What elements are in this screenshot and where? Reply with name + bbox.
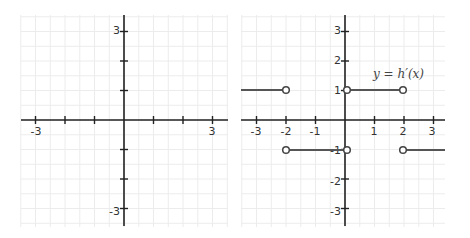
left-x-label-neg3: -3 (31, 125, 42, 138)
figure: -3 3 3 -3 -3 -2 -1 1 2 3 3 2 1 -1 -2 -3 … (0, 0, 470, 238)
open-point-0-pos1 (344, 87, 351, 94)
right-x-label-neg1: -1 (310, 125, 321, 138)
right-y-label-neg2: -2 (330, 175, 341, 188)
right-y-label-neg3: -3 (330, 205, 341, 218)
function-label: y = h′(x) (372, 67, 424, 81)
right-x-label-neg2: -2 (281, 125, 292, 138)
right-x-label-pos1: 1 (371, 125, 378, 138)
open-point-2-pos1 (400, 87, 407, 94)
right-x-label-neg3: -3 (251, 125, 262, 138)
right-graph-panel: -3 -2 -1 1 2 3 3 2 1 -1 -2 -3 y = h′(x) (241, 15, 445, 227)
right-x-label-pos2: 2 (400, 125, 407, 138)
open-point-neg2-neg1 (283, 147, 290, 154)
left-graph-panel: -3 3 3 -3 (21, 15, 228, 227)
left-y-label-neg3: -3 (109, 205, 120, 218)
right-grid (241, 15, 445, 227)
open-point-0-neg1 (344, 147, 351, 154)
right-y-label-pos1: 1 (334, 84, 341, 97)
open-point-2-neg1 (400, 147, 407, 154)
right-y-label-pos3: 3 (334, 24, 341, 37)
right-y-label-pos2: 2 (334, 54, 341, 67)
left-y-label-pos3: 3 (113, 24, 120, 37)
left-x-label-pos3: 3 (209, 125, 216, 138)
right-x-label-pos3: 3 (429, 125, 436, 138)
open-point-neg2-pos1 (283, 87, 290, 94)
